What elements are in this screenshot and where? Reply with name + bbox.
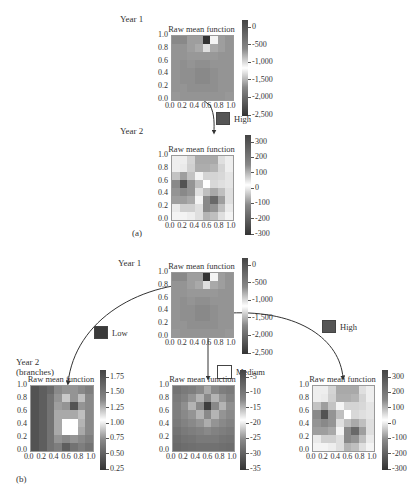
heatmap-cell [211,435,219,443]
heatmap-cell [54,435,62,443]
heatmap-cell [204,410,212,418]
heatmap-cell [210,196,218,204]
heatmap-cell [196,410,204,418]
heatmap-cell [181,410,189,418]
heatmap-cell [54,427,62,435]
heatmap-cell [85,410,93,418]
heatmap-cell [225,313,233,321]
colorbar-tick-label: 1.00 [110,418,124,427]
heatmap-cell [344,427,352,435]
heatmap-cell [210,68,218,76]
heatmap-cell [321,427,329,435]
heatmap-cell [203,76,211,84]
heatmap-cell [196,435,204,443]
heatmap-cell [173,419,181,427]
y-tick-label: 0.4 [150,188,168,197]
x-tick-label: 1.0 [367,452,376,461]
x-tick-label: 0.8 [215,452,224,461]
y-tick-label: 0.2 [151,432,169,441]
heatmap-cell [211,410,219,418]
heatmap-cell [313,427,321,435]
heatmap-cell [180,281,188,289]
heatmap-cell [173,435,181,443]
heatmap-cell [187,212,195,220]
heatmap-cell [328,394,336,402]
heatmap-cell [328,419,336,427]
heatmap-cell [172,172,180,180]
heatmap-cell [210,188,218,196]
heatmap-cell [47,402,55,410]
y-tick-label: 0.6 [291,406,309,415]
heatmap-cell [187,297,195,305]
heatmap-cell [181,427,189,435]
heatmap-cell [351,427,359,435]
heatmap-cell [180,164,188,172]
heatmap-cell [203,92,211,100]
heatmap-cell [47,386,55,394]
heatmap-cell [219,427,227,435]
y-tick-label: 0.2 [150,81,168,90]
heatmap-cell [172,289,180,297]
x-tick-label: 0.8 [74,452,83,461]
heatmap-cell [218,321,226,329]
heatmap-cell [321,435,329,443]
high-swatch [216,112,230,125]
heatmap-cell [366,419,374,427]
heatmap-cell [351,402,359,410]
heatmap-cell [70,419,78,427]
colorbar-tick-label: -300 [392,464,407,473]
heatmap-cell [313,394,321,402]
heatmap-cell [225,196,233,204]
heatmap-cell [78,402,86,410]
heatmap-cell [78,419,86,427]
heatmap-cell [225,188,233,196]
heatmap-cell [359,427,367,435]
heatmap-cell [210,204,218,212]
heatmap-cell [180,172,188,180]
colorbar-tick-label: 100 [255,168,267,177]
heatmap-cell [47,427,55,435]
heatmap-cell [203,188,211,196]
heatmap-cell [313,402,321,410]
heatmap-cell [321,386,329,394]
heatmap-cell [31,410,39,418]
heatmap-cell [366,394,374,402]
heatmap-cell [188,435,196,443]
x-tick-label: 0.4 [330,452,339,461]
high-swatch [322,320,336,333]
y-tick-label: 0.8 [150,280,168,289]
y-tick-label: 1.0 [150,30,168,39]
y-tick-label: 0.2 [291,432,309,441]
colorbar-tick-label: -1,500 [252,313,273,322]
heatmap-cell [172,84,180,92]
heatmap-cell [328,443,336,451]
heatmap-cell [195,305,203,313]
heatmap-cell [218,329,226,337]
x-tick-label: 0.6 [61,452,70,461]
heatmap-cell [195,156,203,164]
colorbar-tick-label: -1,000 [252,57,273,66]
heatmap-cell [225,329,233,337]
heatmap-cell [187,204,195,212]
y-tick-label: 0.8 [150,43,168,52]
heatmap-cell [225,68,233,76]
heatmap-cell [225,164,233,172]
heatmap-cell [187,329,195,337]
plot-title: Raw mean function [162,374,243,384]
heatmap-cell [225,204,233,212]
heatmap-cell [225,156,233,164]
heatmap-cell [180,68,188,76]
heatmap-cell [225,52,233,60]
heatmap-cell [195,172,203,180]
heatmap-cell [62,443,70,451]
heatmap-cell [195,52,203,60]
plot-title: Raw mean function [302,374,383,384]
heatmap-cell [225,84,233,92]
figure: Year 1 Year 2 (a) Year 1 Year 2 (branche… [0,0,418,493]
heatmap-cell [203,84,211,92]
heatmap-cell [225,180,233,188]
heatmap-cell [203,297,211,305]
heatmap-cell [39,402,47,410]
heatmap-cell [39,427,47,435]
heatmap-cell [180,289,188,297]
